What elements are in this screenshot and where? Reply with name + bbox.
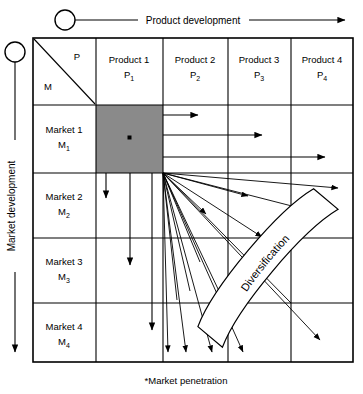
diversification-ray-7 [163, 173, 320, 340]
row-header-market-1: Market 1 M1 [46, 124, 83, 152]
diversification-banner[interactable]: Diversification [190, 182, 338, 347]
column-header-product-1: Product 1 P1 [109, 54, 150, 82]
row-header-label-2: Market 2 [46, 191, 83, 202]
diversification-ray-12 [163, 173, 168, 352]
column-header-product-3: Product 3 P3 [239, 54, 280, 82]
row-header-market-2: Market 2 M2 [46, 191, 83, 219]
row-header-code-2: M2 [58, 206, 70, 219]
top-axis-circle-marker [55, 10, 75, 30]
corner-cell-diagonal [34, 39, 95, 104]
left-axis-group: Market development [5, 42, 25, 352]
column-header-code-2: P2 [190, 69, 200, 82]
corner-label-product: P [74, 51, 80, 62]
bottom-caption: *Market penetration [145, 375, 228, 386]
diversification-ray-10 [163, 173, 190, 291]
column-header-label-1: Product 1 [109, 54, 150, 65]
left-axis-label: Market development [6, 160, 17, 251]
row-header-market-3: Market 3 M3 [46, 256, 83, 284]
column-header-code-3: P3 [254, 69, 264, 82]
ansoff-matrix-diagram: Product development Market development P… [0, 0, 363, 394]
column-header-code-1: P1 [124, 69, 134, 82]
row-header-code-3: M3 [58, 271, 70, 284]
top-axis-group: Product development [55, 10, 345, 30]
highlight-cell-center-dot [128, 136, 132, 140]
row-header-label-1: Market 1 [46, 124, 83, 135]
row-header-label-3: Market 3 [46, 256, 83, 267]
row-header-label-4: Market 4 [46, 321, 83, 332]
column-header-product-2: Product 2 P2 [175, 54, 216, 82]
top-axis-label: Product development [146, 15, 241, 26]
row-header-code-4: M4 [58, 336, 70, 349]
corner-label-market: M [44, 81, 52, 92]
left-axis-circle-marker [5, 42, 25, 62]
column-header-label-2: Product 2 [175, 54, 216, 65]
column-header-code-4: P4 [317, 69, 327, 82]
market-development-arrows [106, 173, 152, 330]
row-header-market-4: Market 4 M4 [46, 321, 83, 349]
row-header-code-1: M1 [58, 139, 70, 152]
column-header-label-3: Product 3 [239, 54, 280, 65]
column-header-label-4: Product 4 [302, 54, 343, 65]
column-header-product-4: Product 4 P4 [302, 54, 343, 82]
product-development-arrows [163, 115, 325, 157]
